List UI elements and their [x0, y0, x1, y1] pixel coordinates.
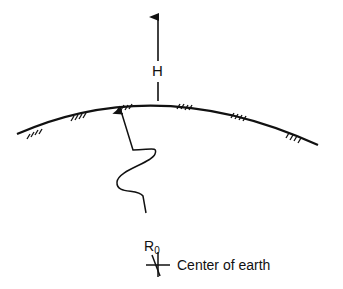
- radius-wavy-line: [117, 111, 156, 213]
- earth-surface-arc: [17, 106, 318, 145]
- hatch-group-1: [27, 129, 42, 139]
- radius-label: R0: [144, 239, 160, 256]
- radius-label-subscript: 0: [154, 245, 160, 256]
- center-of-earth-label: Center of earth: [177, 258, 270, 272]
- radius-label-main: R: [144, 238, 154, 254]
- earth-radius-diagram: [0, 0, 343, 289]
- altitude-label: H: [152, 63, 163, 78]
